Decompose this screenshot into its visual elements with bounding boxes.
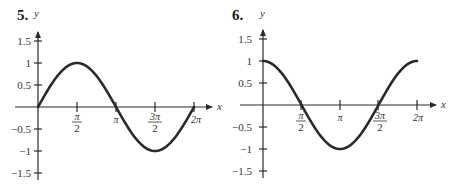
- svg-text:−1: −1: [240, 143, 252, 155]
- y-axis-label: y: [33, 7, 39, 19]
- svg-text:1: 1: [247, 55, 253, 67]
- problem-number: 5.: [17, 7, 29, 23]
- figure: 5. y x 1.5 1 0.5 −0.5 −1 −1.5: [0, 0, 457, 191]
- svg-text:−0.5: −0.5: [232, 121, 252, 133]
- svg-text:−0.5: −0.5: [11, 123, 31, 135]
- svg-text:−1.5: −1.5: [11, 167, 31, 179]
- svg-text:π: π: [298, 110, 304, 121]
- problem-number: 6.: [232, 7, 244, 23]
- svg-text:2π: 2π: [191, 114, 202, 125]
- x-axis-label: x: [216, 100, 222, 112]
- svg-text:1.5: 1.5: [238, 33, 252, 45]
- svg-text:1: 1: [26, 57, 32, 69]
- y-axis-label: y: [259, 7, 265, 19]
- svg-text:π: π: [337, 112, 343, 123]
- graph-5: 5. y x 1.5 1 0.5 −0.5 −1 −1.5: [11, 7, 222, 180]
- svg-text:1.5: 1.5: [17, 35, 31, 47]
- graph-6: 6. y x 1.5 1 0.5 −0.5 −1 −1.5: [232, 7, 446, 178]
- svg-text:π: π: [113, 114, 119, 125]
- x-tick-labels: π 2 π 3π 2 2π: [72, 111, 202, 134]
- svg-text:2π: 2π: [413, 112, 424, 123]
- svg-text:2: 2: [74, 122, 80, 134]
- svg-text:0.5: 0.5: [17, 79, 31, 91]
- svg-text:−1.5: −1.5: [232, 165, 252, 177]
- svg-text:2: 2: [298, 121, 304, 133]
- svg-text:−1: −1: [19, 145, 31, 157]
- svg-text:0.5: 0.5: [238, 77, 252, 89]
- svg-text:π: π: [74, 111, 80, 122]
- x-axis-label: x: [440, 98, 446, 110]
- svg-text:2: 2: [152, 122, 158, 134]
- svg-text:2: 2: [377, 121, 383, 133]
- svg-text:3π: 3π: [149, 111, 161, 122]
